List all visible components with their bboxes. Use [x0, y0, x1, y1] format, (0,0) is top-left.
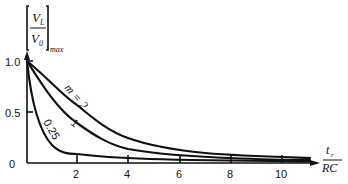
x-axis-label: t r RC — [321, 143, 342, 175]
y-tick-label: 0.5 — [5, 107, 20, 119]
x-tick-label: 4 — [124, 168, 130, 180]
y-label-numerator-sub: L — [39, 18, 45, 27]
curve-label-m-0.25: 0.25 — [41, 117, 62, 142]
x-tick-label: 8 — [227, 168, 233, 180]
x-axis-arrow-icon — [310, 160, 320, 166]
x-tick-label: 10 — [275, 168, 287, 180]
y-axis-label: V L V 0 max — [27, 6, 64, 54]
curve-m-2 — [27, 61, 310, 158]
y-axis-arrow-icon — [24, 51, 30, 60]
y-label-denominator-sub: 0 — [39, 39, 43, 48]
curve-m-1 — [27, 61, 310, 160]
x-label-denominator: RC — [321, 161, 338, 175]
x-label-numerator-sub: r — [331, 151, 334, 159]
x-tick-label: 2 — [73, 168, 79, 180]
x-label-numerator: t — [326, 143, 330, 157]
y-label-suffix: max — [50, 45, 64, 54]
curves — [27, 61, 310, 162]
x-tick-label: 6 — [176, 168, 182, 180]
decay-chart: V L V 0 max 1.0 0.5 0 2 4 6 8 10 t r — [0, 0, 348, 184]
curve-m-0.25 — [27, 61, 310, 162]
y-tick-label: 0 — [9, 158, 15, 170]
y-tick-label: 1.0 — [5, 56, 20, 68]
